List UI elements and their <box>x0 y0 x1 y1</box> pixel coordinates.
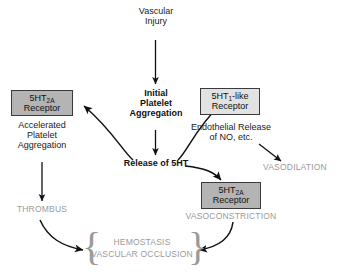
receptor-left-prefix: 5HT <box>30 93 47 103</box>
flowchart-diagram: Vascular Injury Initial Platelet Aggrega… <box>0 0 340 274</box>
receptor-box-bottom-line1: 5HT2A <box>202 185 260 195</box>
receptor-right-prefix: 5HT <box>211 91 228 101</box>
receptor-bottom-prefix: 5HT <box>219 185 236 195</box>
node-accelerated-platelet-aggregation: Accelerated Platelet Aggregation <box>2 120 82 150</box>
receptor-box-left-line1: 5HT2A <box>12 93 72 103</box>
edge-endothelial-to-vasodilation <box>259 144 281 161</box>
node-thrombus: THROMBUS <box>2 205 82 215</box>
node-initial-platelet-aggregation: Initial Platelet Aggregation <box>108 88 204 118</box>
receptor-box-left-line2: Receptor <box>12 103 72 113</box>
receptor-box-5ht2a-left[interactable]: 5HT2A Receptor <box>11 90 73 116</box>
receptor-box-right-line1: 5HT1-like <box>201 91 259 101</box>
node-vascular-injury: Vascular Injury <box>116 6 196 26</box>
node-endothelial-release: Endothelial Release of NO, etc. <box>185 122 277 142</box>
node-vascular-occlusion: VASCULAR OCCLUSION <box>86 250 198 260</box>
receptor-left-subscript: 2A <box>47 97 55 104</box>
node-vasoconstriction: VASOCONSTRICTION <box>166 212 296 222</box>
receptor-box-right-line2: Receptor <box>201 101 259 111</box>
edge-thrombus-to-hemostasis <box>40 220 83 250</box>
node-vasodilation: VASODILATION <box>263 163 339 173</box>
receptor-box-5ht1-like[interactable]: 5HT1-like Receptor <box>200 88 260 115</box>
edge-release-to-bottom-receptor <box>185 166 221 180</box>
receptor-box-5ht2a-bottom[interactable]: 5HT2A Receptor <box>201 182 261 209</box>
receptor-bottom-subscript: 2A <box>236 189 244 196</box>
receptor-box-bottom-line2: Receptor <box>202 195 260 205</box>
node-hemostasis: HEMOSTASIS <box>92 238 192 248</box>
receptor-right-suffix: -like <box>232 91 249 101</box>
receptor-right-subscript: 1 <box>228 95 232 102</box>
node-release-of-5ht: Release of 5HT <box>100 158 212 168</box>
